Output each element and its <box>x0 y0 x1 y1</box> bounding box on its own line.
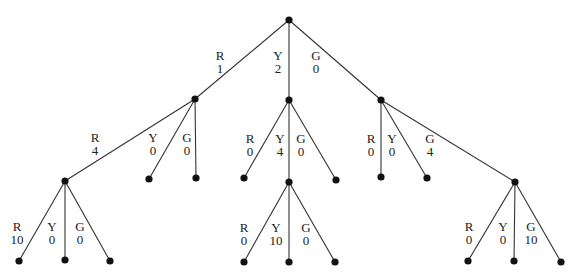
tree-node <box>61 177 68 184</box>
tree-node <box>106 257 113 264</box>
edge-label: Y2 <box>273 48 283 76</box>
edge-label-value: 0 <box>303 233 310 248</box>
tree-node <box>285 258 292 265</box>
tree-edges <box>19 20 561 262</box>
edge-label-value: 4 <box>92 143 99 158</box>
edge-label-value: 0 <box>389 144 396 159</box>
edge-label-value: 2 <box>275 61 282 76</box>
tree-node <box>285 96 292 103</box>
tree-edge <box>381 100 515 182</box>
tree-node <box>240 258 247 265</box>
edge-label: Y4 <box>275 131 285 159</box>
edge-label: Y0 <box>387 131 397 159</box>
tree-node <box>61 256 68 263</box>
tree-edge <box>289 182 335 262</box>
edge-label-value: 0 <box>150 143 157 158</box>
tree-node <box>331 258 338 265</box>
edge-label: G10 <box>525 219 538 247</box>
edge-label: R4 <box>91 130 100 158</box>
edge-label: G0 <box>301 220 310 248</box>
edge-label: R0 <box>367 131 376 159</box>
root-node <box>285 16 292 23</box>
tree-edge <box>514 182 515 261</box>
tree-node <box>511 178 518 185</box>
tree-edge <box>244 182 289 262</box>
tree-node <box>464 257 471 264</box>
edge-label-value: 10 <box>525 232 538 247</box>
tree-node <box>285 178 292 185</box>
tree-node <box>423 174 430 181</box>
edge-label: G0 <box>296 131 305 159</box>
tree-node <box>510 257 517 264</box>
edge-label-value: 0 <box>241 233 248 248</box>
edge-label-value: 4 <box>427 144 434 159</box>
edge-label-value: 0 <box>313 61 320 76</box>
tree-edge <box>65 181 110 261</box>
tree-edge <box>195 99 196 178</box>
edge-label: Y0 <box>498 219 508 247</box>
tree-edge <box>65 99 195 181</box>
tree-edge <box>289 20 381 100</box>
edge-label-value: 0 <box>247 144 254 159</box>
edge-label-value: 10 <box>11 232 24 247</box>
edge-label-value: 0 <box>466 232 473 247</box>
edge-label-value: 10 <box>270 233 283 248</box>
tree-node <box>377 96 384 103</box>
tree-node <box>191 95 198 102</box>
edge-label-value: 4 <box>277 144 284 159</box>
edge-label-value: 1 <box>217 61 224 76</box>
edge-label: R0 <box>240 220 249 248</box>
tree-edge <box>515 182 561 262</box>
tree-node <box>332 176 339 183</box>
tree-node <box>557 258 564 265</box>
tree-node <box>192 174 199 181</box>
edge-label: G4 <box>425 131 434 159</box>
tree-node <box>240 174 247 181</box>
tree-edge <box>19 181 65 261</box>
tree-node <box>377 173 384 180</box>
edge-label-value: 0 <box>49 232 56 247</box>
edge-label-value: 0 <box>368 144 375 159</box>
edge-label-value: 0 <box>298 144 305 159</box>
edge-label-value: 0 <box>77 232 84 247</box>
edge-label: Y0 <box>47 219 57 247</box>
edge-label: G0 <box>311 48 320 76</box>
edge-label-value: 0 <box>500 232 507 247</box>
edge-label: R1 <box>216 48 225 76</box>
game-tree-diagram: R1Y2G0R4Y0G0R0Y4G0R0Y0G4R10Y0G0R0Y10G0R0… <box>0 0 580 279</box>
tree-node <box>145 175 152 182</box>
edge-label: R10 <box>11 219 24 247</box>
edge-label: R0 <box>465 219 474 247</box>
edge-label: G0 <box>75 219 84 247</box>
edge-label: Y10 <box>270 220 283 248</box>
tree-node <box>15 257 22 264</box>
edge-label: Y0 <box>148 130 158 158</box>
edge-label: R0 <box>246 131 255 159</box>
tree-edge <box>468 182 515 261</box>
edge-label-value: 0 <box>184 143 191 158</box>
edge-label: G0 <box>182 130 191 158</box>
